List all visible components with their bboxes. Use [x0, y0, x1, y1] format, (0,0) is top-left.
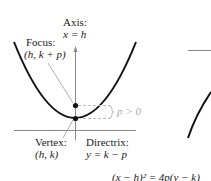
- p-condition-label: p > 0: [116, 105, 141, 117]
- focus-title: Focus:: [26, 36, 55, 48]
- directrix-title: Directrix:: [86, 136, 129, 148]
- axis-title: Axis:: [63, 16, 87, 28]
- standard-equation: (x − h)² = 4p(y − k): [112, 171, 200, 181]
- vertex-point: [73, 116, 78, 121]
- focus-point: [73, 103, 78, 108]
- focus-coordinates: (h, k + p): [24, 48, 66, 61]
- axis-arrow-icon: [74, 46, 78, 52]
- vertex-coordinates: (h, k): [35, 148, 59, 161]
- vertex-title: Vertex:: [35, 136, 67, 148]
- diagram-svg: p > 0 Axis: x = h Focus: (h, k + p) Vert…: [0, 0, 211, 181]
- focus-leader: [48, 63, 73, 103]
- directrix-equation: y = k − p: [85, 148, 128, 160]
- p-brace-icon: [108, 106, 114, 119]
- second-figure-curve: [188, 92, 211, 138]
- axis-equation: x = h: [62, 28, 87, 40]
- parabola-diagram: p > 0 Axis: x = h Focus: (h, k + p) Vert…: [0, 0, 211, 181]
